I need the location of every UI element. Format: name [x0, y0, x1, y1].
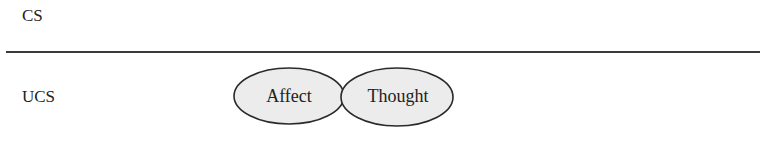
thought-node: Thought	[341, 68, 453, 126]
ellipse-diagram: Affect Thought	[0, 0, 766, 151]
affect-node-label: Affect	[266, 86, 312, 106]
thought-node-label: Thought	[368, 86, 429, 106]
affect-node: Affect	[234, 68, 344, 124]
